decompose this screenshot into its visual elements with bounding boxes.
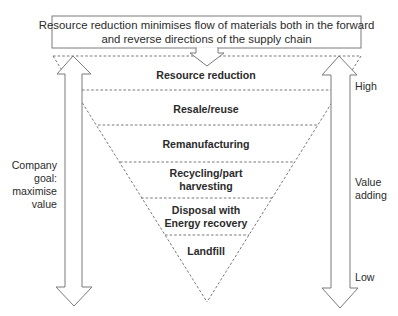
layer-resale-reuse: Resale/reuse [173, 103, 238, 115]
title-box-line-1: Resource reduction minimises flow of mat… [39, 19, 375, 31]
right-double-arrow-icon [322, 56, 358, 308]
title-box-line-2: and reverse directions of the supply cha… [101, 33, 311, 45]
layer-disposal-line-1: Disposal with [172, 204, 240, 216]
value-adding-line-2: adding [355, 189, 387, 201]
down-arrow-icon [190, 48, 224, 66]
layer-recycling-line-2: harvesting [179, 180, 233, 192]
company-goal-line-3: maximise [12, 185, 57, 197]
company-goal-line-4: value [32, 198, 57, 210]
layer-recycling-line-1: Recycling/part [169, 167, 242, 179]
low-label: Low [355, 271, 375, 283]
hierarchy-layers: Resource reduction Resale/reuse Remanufa… [156, 69, 256, 257]
title-box: Resource reduction minimises flow of mat… [39, 16, 375, 66]
left-double-arrow-icon [56, 56, 92, 306]
layer-remanufacturing: Remanufacturing [162, 138, 249, 150]
layer-disposal-line-2: Energy recovery [164, 217, 247, 229]
waste-hierarchy-diagram: Resource reduction minimises flow of mat… [0, 0, 398, 316]
high-label: High [355, 80, 377, 92]
company-goal-line-1: Company [12, 159, 58, 171]
layer-resource-reduction: Resource reduction [156, 69, 256, 81]
layer-landfill: Landfill [187, 245, 225, 257]
value-adding-line-1: Value [355, 176, 381, 188]
inverted-triangle [53, 56, 361, 302]
company-goal-line-2: goal: [34, 172, 57, 184]
right-arrow-labels: High Value adding Low [355, 80, 387, 283]
left-arrow-label: Company goal: maximise value [12, 159, 58, 210]
